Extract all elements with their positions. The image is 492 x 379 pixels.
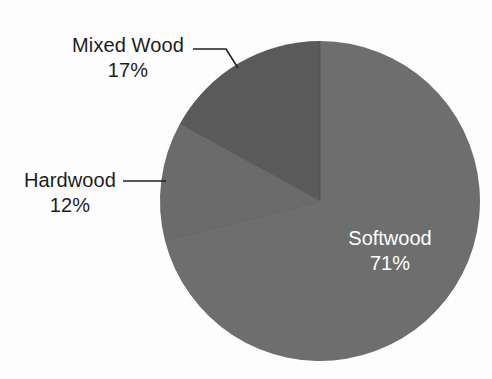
pie-label-softwood-category: Softwood <box>332 226 448 251</box>
pie-label-mixed-wood-category: Mixed Wood <box>63 33 193 58</box>
pie-label-hardwood: Hardwood 12% <box>21 168 119 218</box>
pie-label-mixed-wood: Mixed Wood 17% <box>63 33 193 83</box>
pie-label-hardwood-percent: 12% <box>21 193 119 218</box>
pie-label-softwood: Softwood 71% <box>332 226 448 276</box>
pie-label-mixed-wood-percent: 17% <box>63 58 193 83</box>
pie-chart: Mixed Wood 17% Hardwood 12% Softwood 71% <box>0 0 492 379</box>
leader-line-mixed-wood <box>193 49 238 68</box>
pie-label-hardwood-category: Hardwood <box>21 168 119 193</box>
pie-label-softwood-percent: 71% <box>332 251 448 276</box>
